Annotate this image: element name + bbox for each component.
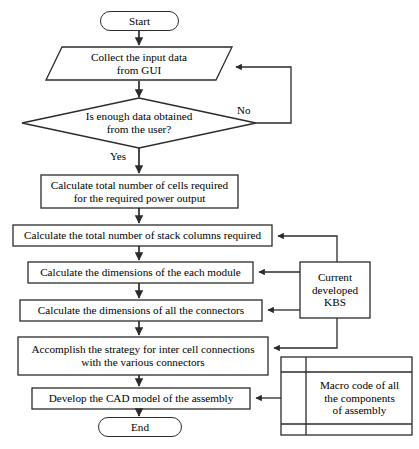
shape-kbs-box	[300, 262, 370, 318]
edge-no-feedback-loop	[236, 67, 291, 123]
shape-inter-cell-box	[18, 337, 268, 375]
shape-collect-input-parallelogram	[46, 47, 232, 80]
edge-kbs-to-intercell	[274, 318, 337, 348]
shape-calc-cells-box	[41, 175, 238, 208]
flowchart-graphics	[0, 0, 419, 449]
shape-calc-module-box	[28, 262, 253, 283]
shape-macro-code-box	[281, 357, 412, 435]
shape-start-terminator[interactable]	[100, 11, 179, 31]
shape-develop-cad-box	[32, 388, 250, 409]
shape-decision-diamond	[22, 98, 256, 148]
shape-calc-connectors-box	[20, 300, 262, 321]
shape-calc-stacks-box	[13, 225, 272, 246]
shape-end-terminator[interactable]	[98, 417, 182, 437]
edge-kbs-to-stacks	[278, 236, 337, 262]
flowchart-canvas: Start Collect the input data from GUI Is…	[0, 0, 419, 449]
